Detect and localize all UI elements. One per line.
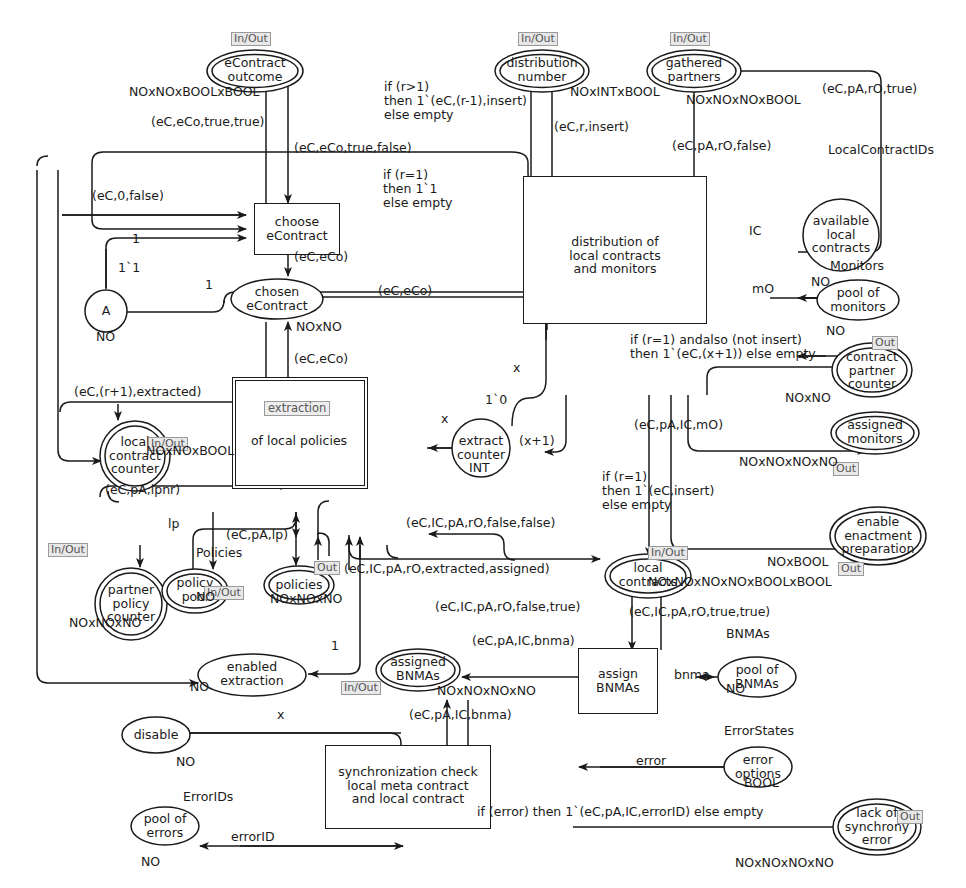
substitution-inner-border: extraction of local policies <box>235 380 365 486</box>
place-partner-policy-counter[interactable]: partner policy counter <box>93 566 169 642</box>
arc-label: (eC,IC,pA,rO,false,true) <box>435 600 580 614</box>
arc-label: bnma <box>674 668 710 682</box>
place-assigned-monitors[interactable]: assigned monitors <box>829 410 921 456</box>
arc-label: NO <box>726 682 745 696</box>
arc-left-outer-top <box>37 156 48 166</box>
ellipse-shape <box>196 652 308 698</box>
transition-label: of local policies <box>236 434 362 448</box>
arc-label: error <box>636 754 666 768</box>
port-tag-in-out: In/Out <box>341 681 381 695</box>
arc-label: (eC,pA,IC,bnma) <box>409 708 512 722</box>
arc-label: 1 <box>132 232 140 246</box>
arc-label: NO <box>141 855 160 869</box>
transition-label: choose eContract <box>255 215 339 242</box>
arc-label: NOxNOxNO <box>69 616 141 630</box>
place-lack-of-synchrony-error[interactable]: lack of synchrony error <box>831 797 923 857</box>
ellipse-shape <box>129 805 201 847</box>
arc-label: x <box>277 708 284 722</box>
arc-label: (eC,eCo,true,true) <box>151 115 264 129</box>
transition-label: distribution of local contracts and moni… <box>524 235 706 276</box>
arc-label: ErrorStates <box>724 724 794 738</box>
arc-label: (eC,eCo) <box>294 250 348 264</box>
arc-label: NO <box>96 330 115 344</box>
arc-pol-to-ex <box>318 533 329 556</box>
arc-label: NOxNO <box>785 391 831 405</box>
arc-label: lp <box>168 517 179 531</box>
arc-label: (eC,pA,lp) <box>226 528 288 542</box>
arc-label: if (r=1) then 1`1 else empty <box>383 168 452 210</box>
port-tag-in-out: In/Out <box>231 32 271 46</box>
place-A[interactable]: A <box>83 288 129 334</box>
circle-shape <box>83 288 129 334</box>
arc-label: if (r>1) then 1`(eC,(r-1),insert) else e… <box>384 80 527 122</box>
arc-label: (eC,IC,pA,rO,true,true) <box>629 605 770 619</box>
arc-label: NOxNOxNOxNO <box>739 455 838 469</box>
arc-label: if (r=1) andalso (not insert) then 1`(eC… <box>630 333 816 361</box>
transition-extraction-of-local-policies[interactable]: extraction of local policies <box>232 377 368 489</box>
arc-label: (eC,eCo) <box>378 284 432 298</box>
arc-label: NOxNOxNOxNO <box>437 684 536 698</box>
arc-label: if (r=1) then 1`(eC,insert) else empty <box>602 470 714 512</box>
port-tag-out: Out <box>838 562 864 576</box>
arc-label: (eC,pA,lpnr) <box>105 483 180 497</box>
ellipse-shape <box>831 797 923 857</box>
place-enabled-extraction[interactable]: enabled extraction <box>196 652 308 698</box>
port-tag-in-out: In/Out <box>48 543 88 557</box>
place-pool-of-errors[interactable]: pool of errors <box>129 805 201 847</box>
place-enable-enactment-preparation[interactable]: enable enactment preparation <box>828 505 928 567</box>
ellipse-shape <box>229 277 325 321</box>
arc-pp-to-ex <box>193 514 296 570</box>
arc-label: BOOL <box>744 776 779 790</box>
arc-label: (eC,0,false) <box>92 189 164 203</box>
transition-distribution-of-local-contracts[interactable]: distribution of local contracts and moni… <box>523 176 707 324</box>
cpn-diagram-canvas: eContract outcome In/Out NOxNOxBOOLxBOOL… <box>0 0 966 888</box>
arc-right-into-extraction <box>429 534 515 560</box>
arc-label: if (error) then 1`(eC,pA,IC,errorID) els… <box>477 805 763 819</box>
arc-label: (eC,pA,rO,false) <box>672 139 771 153</box>
arc-label: ErrorIDs <box>183 790 233 804</box>
type-label-top: LocalContractIDs <box>828 143 934 157</box>
arc-label: NO <box>190 680 209 694</box>
substitution-tag: extraction <box>264 401 330 416</box>
place-chosen-eContract[interactable]: chosen eContract <box>229 277 325 321</box>
arc-label: NOxINTxBOOL <box>570 85 660 99</box>
arc-label: NOxNOxBOOL <box>146 444 234 458</box>
port-tag-out: Out <box>897 810 923 824</box>
arc-label: (eC,IC,pA,rO,extracted,assigned) <box>344 562 550 576</box>
transition-choose-eContract[interactable]: choose eContract <box>254 203 340 255</box>
ellipse-shape <box>120 715 192 755</box>
ellipse-shape <box>815 278 901 322</box>
arc-label: BNMAs <box>726 627 770 641</box>
place-disable[interactable]: disable <box>120 715 192 755</box>
arc-label: NO <box>196 590 215 604</box>
port-tag-out: Out <box>314 561 340 575</box>
arc-label: (eC,pA,IC,mO) <box>634 418 723 432</box>
ellipse-shape <box>829 410 921 456</box>
arc-label: mO <box>752 282 774 296</box>
arc-label: (eC,eCo,true,false) <box>294 141 412 155</box>
arc-label: (eC,IC,pA,rO,false,false) <box>406 516 555 530</box>
place-pool-of-monitors[interactable]: pool of monitors <box>815 278 901 322</box>
arc-ex-bottom-1 <box>318 501 329 535</box>
arc-label: (x+1) <box>519 434 555 448</box>
arc-label: NOxNOxNOxNOxBOOLxBOOL <box>648 575 832 589</box>
arc-label: IC <box>749 224 761 238</box>
arc-label: 1 <box>205 278 213 292</box>
arc-label: NOxNOxNOxNO <box>735 856 834 870</box>
type-label: NOxNOxBOOLxBOOL <box>129 85 260 99</box>
arc-label: INT <box>469 461 490 475</box>
arc-ff <box>387 545 398 558</box>
arc-label: NOxBOOL <box>767 555 829 569</box>
transition-synchronization-check[interactable]: synchronization check local meta contrac… <box>325 745 491 829</box>
arc-label: 1 <box>331 639 339 653</box>
arc-label: errorID <box>231 830 275 844</box>
arc-label: x <box>513 361 520 375</box>
arc-label: (eC,pA,IC,bnma) <box>472 634 575 648</box>
arc-label: (eC,r,insert) <box>554 120 629 134</box>
transition-label: assign BNMAs <box>579 667 657 694</box>
arc-label: NOxNOxNOxBOOL <box>686 93 801 107</box>
transition-assign-BNMAs[interactable]: assign BNMAs <box>578 648 658 714</box>
arc-label: Policies <box>196 546 242 560</box>
transition-label: synchronization check local meta contrac… <box>326 765 490 806</box>
arc-label: 1`1 <box>118 261 140 275</box>
